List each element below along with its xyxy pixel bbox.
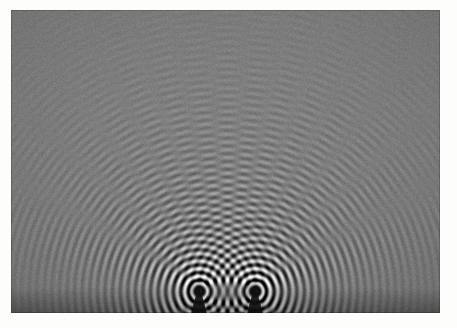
figure-title: Ripple tank two-source interference patt… [0,0,1,1]
figure-description: Circular water waves from two in-phase p… [0,0,1,1]
photograph-frame: Ripple tank two-source interference patt… [0,0,457,328]
source-right-label: right-dipper [0,0,1,1]
ripple-tank-interference-image [11,10,440,313]
source-left-label: left-dipper [0,0,1,1]
figure-alt-text: Two circular wave sources at the bottom … [0,0,1,1]
